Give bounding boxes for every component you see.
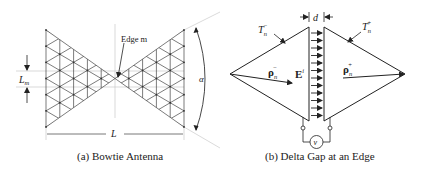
rho-plus-label: ρn+	[343, 61, 352, 77]
gap-label: d	[313, 12, 319, 23]
guide-angle-top	[184, 12, 220, 30]
t-minus-pointer	[274, 34, 285, 43]
guide-angle-bottom	[184, 127, 220, 148]
rho-minus-label: ρn−	[268, 64, 277, 80]
length-label: L	[110, 128, 117, 139]
delta-gap: d Ei Tn− Tn+ ρn− ρn+ v	[230, 12, 405, 149]
field-label: Ei	[295, 67, 304, 80]
source-wire-left	[303, 130, 310, 142]
caption-delta-gap: (b) Delta Gap at an Edge	[265, 150, 375, 162]
angle-arrow-top	[194, 27, 199, 33]
edge-pointer-arrow	[118, 43, 124, 77]
rho-plus-vector	[343, 74, 404, 78]
caption-bowtie: (a) Bowtie Antenna	[77, 150, 163, 162]
t-minus-label: Tn−	[258, 22, 267, 37]
edge-length-label: Lm	[18, 74, 30, 86]
angle-label: α	[199, 74, 204, 84]
terminal-left	[301, 126, 305, 130]
triangle-t-plus	[324, 27, 405, 121]
voltage-label: v	[314, 138, 318, 147]
t-plus-label: Tn+	[362, 19, 371, 34]
edge-label: Edge m	[121, 34, 148, 44]
rho-minus-vector	[230, 74, 292, 83]
source-wire-right	[323, 130, 330, 142]
t-plus-pointer	[348, 32, 361, 42]
field-arrows	[311, 33, 322, 116]
terminal-right	[328, 126, 332, 130]
angle-arrow-bottom	[194, 125, 199, 131]
